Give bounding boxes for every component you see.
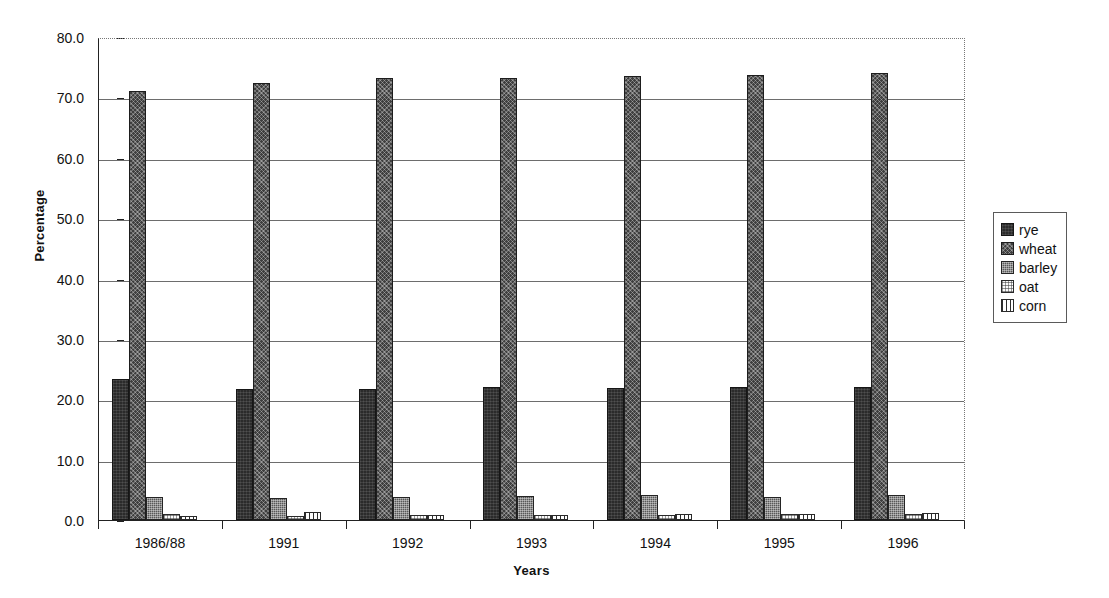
- x-tick: 1996: [841, 521, 965, 561]
- legend-label: corn: [1019, 299, 1046, 313]
- bar-oat: [905, 514, 922, 520]
- bar-group: [840, 39, 964, 520]
- bar-group: [717, 39, 841, 520]
- bar-rye: [112, 379, 129, 520]
- legend-swatch-icon: [1001, 261, 1014, 274]
- y-tick-label: 10.0: [24, 454, 84, 468]
- x-tick-label: 1993: [470, 535, 594, 551]
- bar-rye: [483, 387, 500, 520]
- bar-barley: [393, 497, 410, 520]
- bar-group-inner: [236, 39, 321, 520]
- bar-oat: [163, 514, 180, 520]
- bar-barley: [146, 497, 163, 520]
- x-tick: 1991: [222, 521, 346, 561]
- legend-swatch-icon: [1001, 299, 1014, 312]
- bar-corn: [675, 514, 692, 520]
- bar-wheat: [253, 83, 270, 520]
- bar-group: [99, 39, 223, 520]
- bar-barley: [270, 498, 287, 520]
- bar-group: [223, 39, 347, 520]
- bar-chart: Percentage 0.010.020.030.040.050.060.070…: [0, 0, 1109, 598]
- bar-rye: [854, 387, 871, 520]
- x-tick-mark: [593, 521, 594, 529]
- bar-rye: [359, 389, 376, 520]
- y-tick-label: 30.0: [24, 333, 84, 347]
- x-tick: 1994: [593, 521, 717, 561]
- x-tick-mark: [222, 521, 223, 529]
- bar-barley: [517, 496, 534, 520]
- bar-rye: [607, 388, 624, 520]
- legend-label: oat: [1019, 280, 1038, 294]
- legend-item-rye: rye: [1001, 220, 1057, 239]
- x-tick-label: 1992: [346, 535, 470, 551]
- bar-barley: [764, 497, 781, 520]
- bar-corn: [427, 515, 444, 520]
- bar-wheat: [129, 91, 146, 520]
- legend-label: barley: [1019, 261, 1057, 275]
- bar-group: [470, 39, 594, 520]
- y-tick-label: 80.0: [24, 31, 84, 45]
- legend-label: wheat: [1019, 242, 1056, 256]
- y-tick-label: 0.0: [24, 514, 84, 528]
- bar-group-inner: [854, 39, 939, 520]
- bar-oat: [658, 515, 675, 520]
- x-tick-label: 1991: [222, 535, 346, 551]
- plot-area: [98, 38, 965, 521]
- bar-wheat: [624, 76, 641, 520]
- y-tick-label: 60.0: [24, 152, 84, 166]
- bar-groups: [99, 39, 964, 520]
- bar-oat: [781, 514, 798, 520]
- x-tick-mark: [717, 521, 718, 529]
- bar-corn: [798, 514, 815, 520]
- bar-corn: [551, 515, 568, 520]
- legend-swatch-icon: [1001, 280, 1014, 293]
- x-tick-label: 1996: [841, 535, 965, 551]
- bar-group-inner: [483, 39, 568, 520]
- bar-group-inner: [730, 39, 815, 520]
- bar-barley: [641, 495, 658, 520]
- bar-barley: [888, 495, 905, 520]
- y-tick-label: 50.0: [24, 212, 84, 226]
- y-tick-label: 70.0: [24, 91, 84, 105]
- x-tick-mark: [841, 521, 842, 529]
- x-tick-mark: [346, 521, 347, 529]
- y-axis-ticks: 0.010.020.030.040.050.060.070.080.0: [24, 30, 84, 530]
- x-tick-label: 1995: [717, 535, 841, 551]
- legend-swatch-icon: [1001, 242, 1014, 255]
- bar-wheat: [376, 78, 393, 520]
- bar-wheat: [500, 78, 517, 520]
- x-tick-mark: [964, 521, 965, 529]
- x-tick: 1986/88: [98, 521, 222, 561]
- y-tick-label: 40.0: [24, 273, 84, 287]
- bar-wheat: [747, 75, 764, 520]
- x-axis-title: Years: [98, 563, 965, 578]
- bar-group-inner: [607, 39, 692, 520]
- bar-group-inner: [112, 39, 197, 520]
- x-tick: 1992: [346, 521, 470, 561]
- x-tick: 1993: [470, 521, 594, 561]
- legend-item-barley: barley: [1001, 258, 1057, 277]
- x-tick: 1995: [717, 521, 841, 561]
- x-tick-label: 1986/88: [98, 535, 222, 551]
- legend-item-corn: corn: [1001, 296, 1057, 315]
- bar-rye: [236, 389, 253, 520]
- legend-label: rye: [1019, 223, 1038, 237]
- bar-wheat: [871, 73, 888, 520]
- x-tick-mark: [470, 521, 471, 529]
- bar-group: [346, 39, 470, 520]
- bar-oat: [410, 515, 427, 520]
- legend-item-oat: oat: [1001, 277, 1057, 296]
- bar-group-inner: [359, 39, 444, 520]
- x-axis-ticks: 1986/88199119921993199419951996: [98, 521, 965, 561]
- bar-corn: [304, 512, 321, 520]
- bar-corn: [922, 513, 939, 520]
- bar-oat: [534, 515, 551, 520]
- bar-group: [593, 39, 717, 520]
- bar-corn: [180, 516, 197, 520]
- y-tick-label: 20.0: [24, 393, 84, 407]
- legend-swatch-icon: [1001, 223, 1014, 236]
- bar-oat: [287, 516, 304, 520]
- legend: ryewheatbarleyoatcorn: [993, 212, 1067, 323]
- x-tick-label: 1994: [593, 535, 717, 551]
- x-tick-mark: [98, 521, 99, 529]
